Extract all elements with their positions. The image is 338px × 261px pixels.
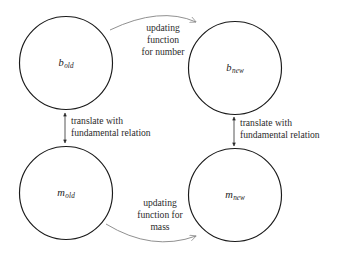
node-label-b-new-sub: new [232,67,244,75]
node-label-m-new-sub: new [233,194,245,202]
node-label-b-old-sub: old [64,62,74,70]
node-label-b-old-base: b [59,57,64,68]
edge-label-right: translate with fundamental relation [240,117,320,142]
node-label-m-new: mnew [225,190,245,201]
node-label-b-new: bnew [226,63,243,74]
node-label-b-old: bold [59,58,74,69]
node-label-b-new-base: b [226,62,231,73]
edge-label-left: translate with fundamental relation [71,115,151,140]
node-label-m-old: mold [57,188,74,199]
edge-label-bottom: updating function for mass [137,197,183,233]
node-label-m-new-base: m [225,189,233,200]
diagram-canvas: bold bnew mold mnew updating function fo… [0,0,338,261]
edge-label-top: updating function for number [142,22,185,58]
node-label-m-old-base: m [57,187,65,198]
node-label-m-old-sub: old [65,192,75,200]
